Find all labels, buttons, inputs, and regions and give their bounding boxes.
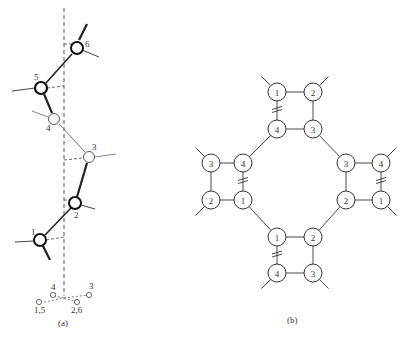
bond-6-side [82, 50, 99, 57]
out-top-tr [319, 76, 328, 85]
caption-a: (a) [58, 318, 68, 328]
bond-5-side [12, 88, 35, 91]
perp-1 [46, 237, 64, 240]
out-right-tr [387, 147, 396, 156]
perp-5 [47, 86, 64, 88]
out-top-tl [261, 76, 270, 85]
proj-atom-2-6 [74, 299, 79, 304]
panel-b: 1243342134211243 [195, 76, 396, 288]
node-label-left-tr: 4 [241, 159, 246, 169]
proj-atom-3 [86, 292, 91, 297]
atom-label-5: 5 [34, 72, 39, 82]
proj-label-4: 4 [51, 282, 56, 292]
proj-line-3 [64, 295, 88, 298]
atom-5 [35, 82, 47, 94]
out-left-bl [195, 206, 204, 215]
node-label-right-tr: 4 [379, 159, 384, 169]
node-label-top-tl: 1 [275, 88, 280, 98]
atom-label-4: 4 [46, 123, 51, 133]
atom-6 [71, 42, 83, 54]
atom-1 [34, 234, 46, 246]
bond-3-side [95, 154, 116, 157]
bond-2-3 [77, 163, 87, 197]
out-bottom-bl [261, 279, 270, 288]
caption-b: (b) [287, 315, 298, 325]
node-label-top-tr: 2 [311, 88, 316, 98]
node-label-left-bl: 2 [209, 196, 214, 206]
bond-3-4 [59, 124, 85, 152]
node-label-bottom-tr: 2 [311, 233, 316, 243]
bond-5-6 [46, 54, 72, 83]
proj-label-1-5: 1,5 [34, 305, 46, 315]
proj-atom-1-5 [36, 299, 41, 304]
node-label-bottom-br: 3 [311, 269, 316, 279]
node-label-right-br: 1 [379, 196, 384, 206]
atom-3 [84, 152, 95, 163]
node-label-right-bl: 2 [344, 196, 349, 206]
ring-bond-top-right [319, 135, 339, 156]
bond-1-side [15, 241, 34, 242]
diagram-canvas: 6 5 4 3 2 1 4 3 1,5 2,6 (a) 124334213421… [0, 0, 409, 339]
node-label-left-br: 1 [241, 196, 246, 206]
node-label-bottom-tl: 1 [275, 233, 280, 243]
atom-label-1: 1 [31, 227, 36, 237]
ring-bond-top-left [249, 135, 270, 156]
atom-label-6: 6 [85, 39, 90, 49]
proj-atom-4 [50, 292, 55, 297]
bond-4-5 [44, 94, 52, 113]
out-right-br [387, 206, 396, 215]
out-bottom-br [319, 279, 328, 288]
proj-label-3: 3 [89, 281, 94, 291]
atom-label-3: 3 [92, 142, 97, 152]
bond-6-top [79, 24, 87, 40]
node-label-top-br: 3 [311, 125, 316, 135]
bond-1-bottom [43, 246, 50, 260]
proj-line-1 [40, 298, 64, 303]
node-label-left-tl: 3 [209, 159, 214, 169]
ring-bond-right-bottom [319, 207, 340, 231]
panel-a: 6 5 4 3 2 1 4 3 1,5 2,6 (a) [12, 8, 116, 328]
atom-2 [69, 197, 81, 209]
bond-1-2 [45, 208, 71, 235]
perp-3 [64, 158, 83, 160]
node-label-right-tl: 3 [344, 159, 349, 169]
node-label-bottom-bl: 4 [275, 269, 280, 279]
node-label-top-bl: 4 [275, 125, 280, 135]
proj-label-2-6: 2,6 [71, 305, 83, 315]
bond-4-side [32, 111, 48, 117]
ring-bond-left-bottom [249, 207, 271, 231]
bond-2-side [81, 205, 95, 209]
atom-label-2: 2 [74, 210, 79, 220]
out-left-tl [195, 147, 204, 156]
